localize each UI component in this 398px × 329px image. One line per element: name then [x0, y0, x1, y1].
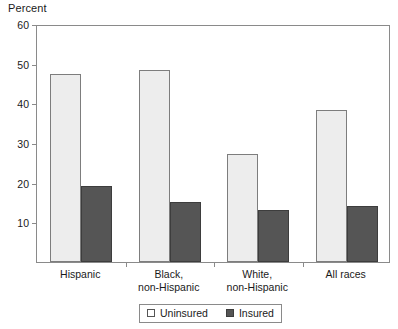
category-label-3: All races — [302, 268, 391, 281]
category-label-line: non-Hispanic — [213, 281, 302, 294]
legend-entry-insured[interactable]: Insured — [226, 307, 274, 319]
category-label-0: Hispanic — [36, 268, 125, 281]
category-label-line: White, — [213, 268, 302, 281]
bar-insured-3 — [347, 206, 378, 262]
bar-insured-1 — [170, 202, 201, 262]
y-tick-label: 10 — [5, 218, 29, 228]
bar-insured-0 — [81, 186, 112, 262]
y-axis-title: Percent — [8, 2, 47, 15]
bar-uninsured-2 — [227, 154, 258, 262]
category-label-1: Black,non-Hispanic — [125, 268, 214, 294]
legend-label-insured: Insured — [239, 307, 274, 319]
uninsured-swatch-icon — [147, 309, 155, 317]
category-label-line: All races — [302, 268, 391, 281]
category-label-line: Black, — [125, 268, 214, 281]
y-tick-label: 50 — [5, 60, 29, 70]
y-tick-label: 30 — [5, 139, 29, 149]
plot-area — [36, 25, 390, 263]
chart-legend: Uninsured Insured — [139, 304, 282, 323]
bar-insured-2 — [258, 210, 289, 262]
group-separator — [126, 262, 127, 267]
y-tick-label: 20 — [5, 179, 29, 189]
group-separator — [303, 262, 304, 267]
y-tick-label: 60 — [5, 20, 29, 30]
category-label-line: Hispanic — [36, 268, 125, 281]
group-separator — [214, 262, 215, 267]
bar-uninsured-3 — [316, 110, 347, 262]
legend-entry-uninsured[interactable]: Uninsured — [147, 307, 208, 319]
y-tick-label: 40 — [5, 99, 29, 109]
legend-label-uninsured: Uninsured — [160, 307, 208, 319]
category-label-line: non-Hispanic — [125, 281, 214, 294]
category-label-2: White,non-Hispanic — [213, 268, 302, 294]
bar-chart: Percent 102030405060 HispanicBlack,non-H… — [0, 0, 398, 329]
insured-swatch-icon — [226, 309, 234, 317]
bar-uninsured-1 — [139, 70, 170, 262]
bar-uninsured-0 — [50, 74, 81, 262]
